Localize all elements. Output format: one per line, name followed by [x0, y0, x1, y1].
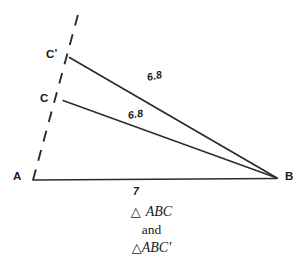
- triangle-glyph-icon: △: [131, 204, 141, 219]
- vertex-label-c-prime-letter: C: [46, 48, 55, 60]
- vertex-label-c: C: [40, 93, 49, 105]
- prime-mark-icon: ': [55, 47, 58, 59]
- vertex-label-a: A: [13, 171, 22, 183]
- caption-line-triangle-abc-prime: △ABC′: [0, 239, 303, 257]
- caption-prime-mark-icon: ′: [168, 240, 171, 255]
- segment-cb: [63, 101, 277, 179]
- caption-text-abc-2: ABC: [142, 240, 168, 255]
- vertex-label-b: B: [285, 171, 294, 183]
- caption-line-triangle-abc: △ABC: [0, 203, 303, 221]
- caption-line-and: and: [0, 221, 303, 239]
- measure-label-base: 7: [133, 186, 139, 197]
- caption-text-abc: ABC: [146, 204, 172, 219]
- figure-caption: △ABC and △ABC′: [0, 203, 303, 258]
- segment-cprime-b: [70, 58, 278, 179]
- triangle-glyph-icon-2: △: [132, 240, 142, 255]
- geometry-figure: A B C C' 7 6.8 6.8 △ABC and △ABC′: [0, 0, 303, 264]
- segment-ab: [33, 179, 277, 181]
- measure-label-lower-side: 6.8: [127, 108, 144, 121]
- vertex-label-c-prime: C': [46, 49, 57, 61]
